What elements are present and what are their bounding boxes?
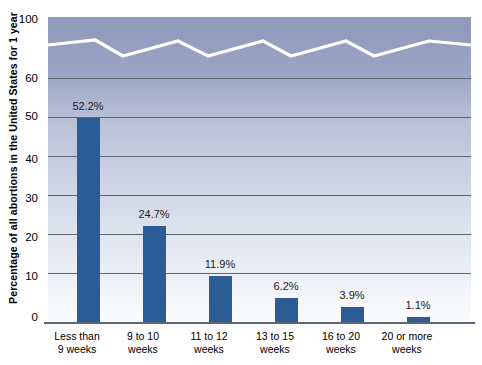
bar-value-label-1: 52.2% xyxy=(53,100,123,112)
gridline-30 xyxy=(48,195,471,196)
y-tick-40: 40 xyxy=(8,153,38,165)
x-label-line-2: 9 weeks xyxy=(41,343,113,356)
bar-less-than-9-weeks xyxy=(77,118,100,322)
x-label-line-1: 20 or more xyxy=(371,330,443,343)
bar-11-to-12-weeks xyxy=(209,276,232,322)
y-tick-30: 30 xyxy=(8,192,38,204)
y-tick-0: 0 xyxy=(8,311,38,323)
x-label-line-1: 13 to 15 xyxy=(239,330,311,343)
gridline-50 xyxy=(48,117,471,118)
gridline-60 xyxy=(48,78,471,79)
x-label-line-1: 11 to 12 xyxy=(173,330,245,343)
y-tick-100: 100 xyxy=(8,13,38,25)
x-label-line-2: weeks xyxy=(239,343,311,356)
bar-value-label-5: 3.9% xyxy=(317,289,387,301)
bar-9-to-10-weeks xyxy=(143,226,166,322)
bar-value-label-6: 1.1% xyxy=(383,299,453,311)
x-label-13-to-15-weeks: 13 to 15 weeks xyxy=(239,330,311,355)
gridline-10 xyxy=(48,273,471,274)
y-tick-10: 10 xyxy=(8,270,38,282)
chart-figure: Percentage of all abortions in the Unite… xyxy=(0,0,482,365)
bar-13-to-15-weeks xyxy=(275,298,298,322)
gridline-40 xyxy=(48,156,471,157)
x-label-20-or-more-weeks: 20 or more weeks xyxy=(371,330,443,355)
y-tick-20: 20 xyxy=(8,231,38,243)
bar-value-label-2: 24.7% xyxy=(119,208,189,220)
x-label-line-1: 16 to 20 xyxy=(305,330,377,343)
x-label-9-to-10-weeks: 9 to 10 weeks xyxy=(107,330,179,355)
gridline-20 xyxy=(48,234,471,235)
axis-break-zigzag-icon xyxy=(48,17,471,77)
x-label-line-2: weeks xyxy=(107,343,179,356)
x-label-11-to-12-weeks: 11 to 12 weeks xyxy=(173,330,245,355)
x-label-line-1: 9 to 10 xyxy=(107,330,179,343)
bar-value-label-4: 6.2% xyxy=(251,280,321,292)
bar-16-to-20-weeks xyxy=(341,307,364,322)
y-tick-60: 60 xyxy=(8,72,38,84)
x-label-line-1: Less than xyxy=(41,330,113,343)
x-label-line-2: weeks xyxy=(371,343,443,356)
x-label-less-than-9-weeks: Less than 9 weeks xyxy=(41,330,113,355)
y-tick-50: 50 xyxy=(8,110,38,122)
x-axis-line xyxy=(44,322,475,324)
bar-value-label-3: 11.9% xyxy=(185,258,255,270)
x-label-16-to-20-weeks: 16 to 20 weeks xyxy=(305,330,377,355)
plot-area: 52.2% 24.7% 11.9% 6.2% 3.9% 1.1% xyxy=(48,17,471,322)
x-label-line-2: weeks xyxy=(305,343,377,356)
x-label-line-2: weeks xyxy=(173,343,245,356)
